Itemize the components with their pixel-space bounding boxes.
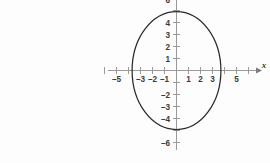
y-tick-label-6: 6 xyxy=(165,0,170,5)
y-tick-label--3: –3 xyxy=(161,103,171,112)
ellipse-graph-figure: –5 –3 –2 –1 1 2 3 5 6 4 3 2 1 –2 –3 –4 –… xyxy=(0,0,270,163)
x-tick-label--1: –1 xyxy=(160,75,170,84)
y-tick-label-4: 4 xyxy=(165,19,170,28)
x-tick-label-1: 1 xyxy=(186,75,191,84)
y-tick-label--6: –6 xyxy=(161,139,171,148)
x-tick-label--3: –3 xyxy=(136,75,146,84)
x-tick-label-5: 5 xyxy=(234,75,239,84)
y-tick-label-2: 2 xyxy=(165,43,170,52)
y-tick-label--4: –4 xyxy=(161,115,171,124)
x-tick-label--5: –5 xyxy=(112,75,122,84)
y-tick-label-1: 1 xyxy=(165,55,170,64)
x-tick-label--2: –2 xyxy=(148,75,158,84)
y-tick-label-3: 3 xyxy=(165,31,170,40)
x-tick-label-2: 2 xyxy=(198,75,203,84)
x-axis-label: x xyxy=(261,60,267,70)
y-tick-label--2: –2 xyxy=(161,91,171,100)
coordinate-plane: –5 –3 –2 –1 1 2 3 5 6 4 3 2 1 –2 –3 –4 –… xyxy=(0,0,270,163)
x-tick-label-3: 3 xyxy=(210,75,215,84)
